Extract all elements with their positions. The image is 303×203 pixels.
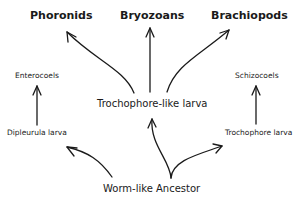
node-bryozoans: Bryozoans — [120, 9, 184, 22]
node-trochophore-like-larva: Trochophore-like larva — [97, 98, 207, 109]
node-dipleurula-larva: Dipleurula larva — [7, 128, 67, 137]
edge-ancestor-to-trochophore — [171, 146, 222, 178]
node-phoronids: Phoronids — [30, 9, 92, 22]
edge-trochophore-like-to-phoronids — [67, 32, 134, 93]
node-enterocoels: Enterocoels — [15, 71, 59, 80]
edge-ancestor-to-dipleurula — [67, 147, 112, 177]
node-schizocoels: Schizocoels — [235, 71, 279, 80]
phylogeny-diagram: Phoronids Bryozoans Brachiopods Enteroco… — [0, 0, 303, 203]
node-trochophore-larva: Trochophore larva — [225, 128, 292, 137]
node-brachiopods: Brachiopods — [211, 9, 288, 22]
edge-ancestor-to-trochophore-like — [152, 119, 171, 178]
edge-trochophore-like-to-brachiopods — [167, 30, 229, 92]
node-worm-like-ancestor: Worm-like Ancestor — [103, 183, 200, 194]
